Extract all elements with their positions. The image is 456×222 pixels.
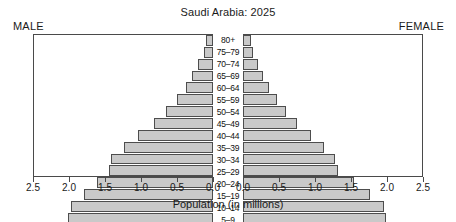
bar-male xyxy=(206,35,213,46)
axis-tick-label: 2.5 xyxy=(416,182,430,193)
axis-tick-label: 0.5 xyxy=(170,182,184,193)
bar-row xyxy=(34,213,213,222)
age-group-label: 15–19 xyxy=(213,190,243,202)
axis-tick-label: 2.0 xyxy=(62,182,76,193)
bar-row xyxy=(243,71,422,83)
bar-male xyxy=(109,165,213,176)
bar-male xyxy=(192,71,213,82)
axis-tick-label: 1.5 xyxy=(98,182,112,193)
age-group-label: 20–24 xyxy=(213,178,243,190)
age-group-label: 35–39 xyxy=(213,142,243,154)
bar-female xyxy=(243,118,297,129)
axis-tick-label: 1.0 xyxy=(134,182,148,193)
bar-row xyxy=(34,165,213,177)
bar-row xyxy=(34,82,213,94)
bar-row xyxy=(243,47,422,59)
bar-male xyxy=(138,130,213,141)
bar-row xyxy=(243,82,422,94)
bar-male xyxy=(154,118,213,129)
chart-title: Saudi Arabia: 2025 xyxy=(0,6,456,18)
age-group-axis: 80+75–7970–7465–6960–6455–5950–5445–4940… xyxy=(213,34,243,177)
bar-row xyxy=(243,118,422,130)
age-group-label: 65–69 xyxy=(213,70,243,82)
bar-row xyxy=(243,35,422,47)
bar-row xyxy=(34,94,213,106)
bar-row xyxy=(34,154,213,166)
female-plot-panel xyxy=(243,34,423,177)
male-plot-panel xyxy=(33,34,213,177)
bar-row xyxy=(34,59,213,71)
axis-tick-label: 2.5 xyxy=(26,182,40,193)
age-group-label: 40–44 xyxy=(213,130,243,142)
bar-female xyxy=(243,130,311,141)
bar-male xyxy=(186,82,213,93)
age-group-label: 25–29 xyxy=(213,166,243,178)
bar-male xyxy=(177,94,213,105)
bar-male xyxy=(68,213,213,222)
bar-male xyxy=(166,106,213,117)
bar-row xyxy=(34,71,213,83)
bar-female xyxy=(243,71,263,82)
age-group-label: 60–64 xyxy=(213,82,243,94)
bar-female xyxy=(243,213,386,222)
bar-female xyxy=(243,165,338,176)
age-group-label: 30–34 xyxy=(213,154,243,166)
bar-female xyxy=(243,47,253,58)
bar-row xyxy=(34,47,213,59)
female-bar-group xyxy=(243,35,422,176)
age-group-label: 55–59 xyxy=(213,94,243,106)
bar-row xyxy=(34,142,213,154)
age-group-label: 45–49 xyxy=(213,118,243,130)
bar-row xyxy=(34,35,213,47)
bar-female xyxy=(243,35,251,46)
bar-male xyxy=(111,154,213,165)
age-group-label: 50–54 xyxy=(213,106,243,118)
bar-row xyxy=(243,142,422,154)
axis-tick-label: 1.5 xyxy=(344,182,358,193)
bar-row xyxy=(34,118,213,130)
bar-female xyxy=(243,154,335,165)
bar-row xyxy=(243,94,422,106)
age-group-label: 70–74 xyxy=(213,58,243,70)
age-group-label: 5–9 xyxy=(213,214,243,222)
bar-male xyxy=(124,142,214,153)
bar-row xyxy=(243,154,422,166)
axis-tick-label: 1.0 xyxy=(308,182,322,193)
bar-row xyxy=(243,130,422,142)
bar-female xyxy=(243,106,286,117)
male-side-caption: MALE xyxy=(13,20,44,32)
bar-female xyxy=(243,142,324,153)
bar-row xyxy=(34,106,213,118)
axis-tick-label: 2.0 xyxy=(380,182,394,193)
bar-row xyxy=(243,213,422,222)
bar-row xyxy=(34,130,213,142)
male-x-axis: 2.52.01.51.00.50.0 xyxy=(33,177,213,195)
bar-female xyxy=(243,94,277,105)
bar-row xyxy=(243,59,422,71)
population-pyramid-chart: Saudi Arabia: 2025 MALE FEMALE 80+75–797… xyxy=(0,0,456,222)
male-bar-group xyxy=(34,35,213,176)
female-x-axis: 0.00.51.01.52.02.5 xyxy=(243,177,423,195)
age-group-label: 80+ xyxy=(213,34,243,46)
age-group-label: 75–79 xyxy=(213,46,243,58)
age-group-label: 10–14 xyxy=(213,202,243,214)
bar-male xyxy=(198,59,213,70)
bar-female xyxy=(243,59,258,70)
bar-female xyxy=(243,82,269,93)
axis-tick-label: 0.5 xyxy=(272,182,286,193)
bar-male xyxy=(204,47,213,58)
bar-row xyxy=(243,106,422,118)
female-side-caption: FEMALE xyxy=(399,20,444,32)
bar-row xyxy=(243,165,422,177)
